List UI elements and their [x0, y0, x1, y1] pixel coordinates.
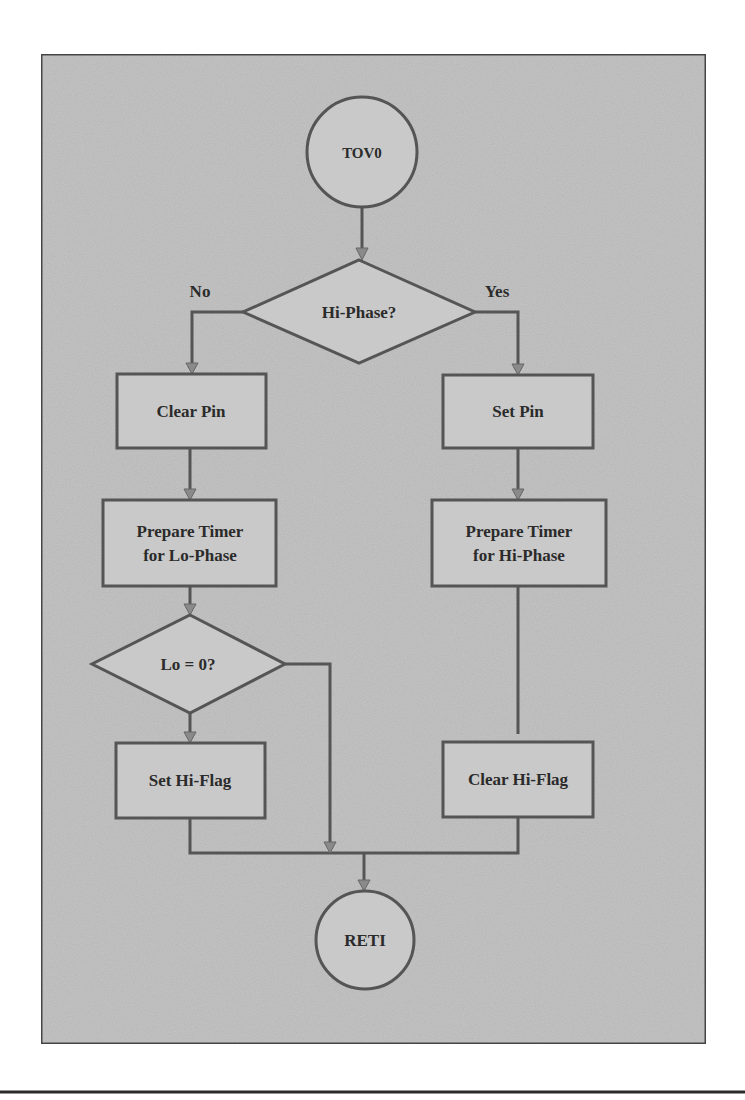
prepare-timer-hi-box	[432, 500, 606, 586]
edge-label-no: No	[190, 282, 211, 301]
node-end: RETI	[316, 891, 414, 989]
node-prepare-timer-lo: Prepare Timer for Lo-Phase	[103, 500, 276, 586]
node-prepare-timer-hi: Prepare Timer for Hi-Phase	[432, 500, 606, 586]
node-start: TOV0	[307, 97, 417, 207]
prepare-timer-lo-line1: Prepare Timer	[137, 522, 244, 541]
clear-hi-flag-label: Clear Hi-Flag	[468, 770, 569, 789]
prepare-timer-lo-line2: for Lo-Phase	[143, 546, 237, 565]
set-hi-flag-label: Set Hi-Flag	[149, 771, 232, 790]
node-clear-hi-flag: Clear Hi-Flag	[443, 742, 593, 817]
node-set-hi-flag: Set Hi-Flag	[116, 743, 265, 818]
set-pin-label: Set Pin	[492, 402, 544, 421]
prepare-timer-hi-line1: Prepare Timer	[466, 522, 573, 541]
node-set-pin: Set Pin	[443, 375, 593, 448]
prepare-timer-hi-line2: for Hi-Phase	[473, 546, 565, 565]
flowchart-diagram: TOV0 Hi-Phase? No Yes Clear Pin Set Pin …	[0, 0, 745, 1100]
hi-phase-label: Hi-Phase?	[322, 303, 397, 322]
edge-label-yes: Yes	[485, 282, 510, 301]
lo-zero-label: Lo = 0?	[160, 655, 215, 674]
end-label: RETI	[344, 931, 386, 950]
clear-pin-label: Clear Pin	[156, 402, 226, 421]
node-clear-pin: Clear Pin	[117, 374, 266, 448]
prepare-timer-lo-box	[103, 500, 276, 586]
start-label: TOV0	[342, 145, 382, 161]
